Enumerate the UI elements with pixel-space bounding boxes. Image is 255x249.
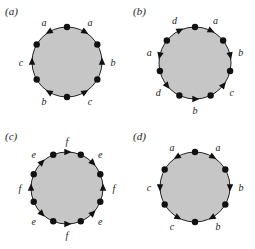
edge-label: b — [193, 105, 198, 116]
vertex-dot — [222, 201, 228, 207]
vertex-dot — [31, 171, 37, 177]
vertex-dot — [97, 171, 103, 177]
edge-label: e — [32, 216, 37, 227]
edge-label: c — [19, 57, 24, 68]
edge-label: c — [170, 221, 175, 232]
edge-label: a — [213, 15, 218, 26]
edge-label: c — [88, 96, 93, 107]
edge-label: f — [19, 183, 23, 194]
vertex-dot — [222, 166, 228, 172]
vertex-dot — [94, 41, 100, 47]
vertex-dot — [33, 76, 39, 82]
disk — [160, 152, 230, 222]
vertex-dot — [192, 24, 198, 30]
edge-label: b — [239, 182, 244, 193]
disk-diagram-b: abcbdad — [128, 0, 255, 124]
vertex-dot — [157, 68, 163, 74]
vertex-dot — [176, 92, 182, 98]
vertex-dot — [31, 199, 37, 205]
disk — [159, 27, 231, 99]
edge-label: a — [216, 142, 221, 153]
vertex-dot — [78, 218, 84, 224]
vertex-dot — [164, 37, 170, 43]
edge-label: a — [170, 142, 175, 153]
edge-label: f — [113, 183, 117, 194]
edge-label: f — [66, 136, 70, 147]
vertex-dot — [161, 166, 167, 172]
vertex-dot — [50, 218, 56, 224]
disk-diagram-c: fefefefe — [0, 125, 127, 249]
disk-diagram-d: abbcca — [128, 125, 255, 249]
panel-a: (a) abcbca — [0, 0, 127, 124]
edge-label: a — [42, 17, 47, 28]
edge-label: c — [147, 182, 152, 193]
panel-d: (d) abbcca — [128, 125, 255, 249]
vertex-dot — [33, 41, 39, 47]
vertex-dot — [192, 149, 198, 155]
vertex-dot — [227, 68, 233, 74]
edge-label: f — [66, 230, 70, 241]
vertex-dot — [64, 94, 70, 100]
disk — [32, 27, 102, 97]
vertex-dot — [50, 152, 56, 158]
vertex-dot — [192, 219, 198, 225]
edge-label: c — [230, 87, 235, 98]
vertex-dot — [220, 37, 226, 43]
edge-label: b — [111, 57, 116, 68]
panel-c: (c) fefefefe — [0, 125, 127, 249]
panel-b: (b) abcbdad — [128, 0, 255, 124]
vertex-dot — [64, 24, 70, 30]
vertex-dot — [207, 92, 213, 98]
edge-label: b — [216, 221, 221, 232]
edge-label: e — [32, 149, 37, 160]
edge-label: a — [88, 17, 93, 28]
edge-label: a — [147, 47, 152, 58]
edge-label: b — [238, 47, 243, 58]
vertex-dot — [97, 199, 103, 205]
edge-label: d — [172, 15, 178, 26]
edge-label: e — [98, 149, 103, 160]
vertex-dot — [161, 201, 167, 207]
edge-label: b — [42, 96, 47, 107]
edge-label: d — [156, 87, 162, 98]
vertex-dot — [94, 76, 100, 82]
disk-diagram-a: abcbca — [0, 0, 127, 124]
edge-label: e — [98, 216, 103, 227]
vertex-dot — [78, 152, 84, 158]
